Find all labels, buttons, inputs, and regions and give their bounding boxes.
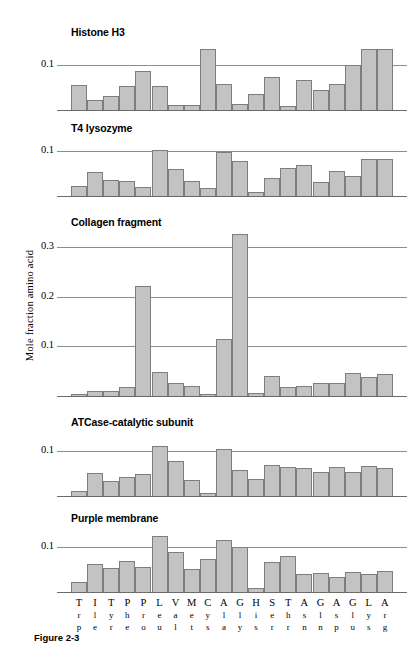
bar (232, 547, 248, 593)
bar (184, 480, 200, 496)
x-axis-label-thr: Thr (280, 596, 296, 633)
bar (103, 180, 119, 196)
bar (361, 377, 377, 396)
x-label-line: P (119, 596, 135, 609)
x-axis-label-arg: Arg (377, 596, 393, 633)
axis-baseline (57, 396, 407, 397)
bar (232, 161, 248, 196)
y-axis-tick-label: 0.1 (41, 540, 54, 551)
bar (345, 472, 361, 496)
bar (248, 588, 264, 592)
panel-title: Collagen fragment (71, 216, 161, 228)
bar (119, 86, 135, 110)
bar (135, 567, 151, 592)
bar (280, 106, 296, 110)
bar (248, 192, 264, 196)
x-label-line: u (345, 621, 361, 633)
bar (216, 449, 232, 496)
y-axis-tick-label: 0.1 (41, 58, 54, 69)
bar (264, 376, 280, 396)
x-axis-label-val: Val (168, 596, 184, 633)
x-label-line: y (361, 609, 377, 621)
x-label-line: r (377, 609, 393, 621)
bar (168, 461, 184, 496)
bar (71, 85, 87, 110)
bar (103, 568, 119, 592)
bar (280, 467, 296, 496)
bar (264, 77, 280, 110)
y-axis-tick-label: 0.3 (41, 240, 54, 251)
x-axis-label-ala: Ala (216, 596, 232, 633)
x-label-line: y (200, 609, 216, 621)
x-label-line: S (264, 596, 280, 609)
bar (329, 84, 345, 110)
bar (377, 468, 393, 496)
x-axis-label-gln: Gln (313, 596, 329, 633)
x-axis-label-phe: Phe (119, 596, 135, 633)
x-label-line: L (152, 596, 168, 609)
y-axis-tick-label: 0.1 (41, 444, 54, 455)
bar (135, 474, 151, 496)
bar (264, 465, 280, 496)
bar (87, 172, 103, 196)
x-label-line: r (71, 609, 87, 621)
bar (200, 559, 216, 592)
bar (313, 90, 329, 110)
bar (184, 105, 200, 110)
x-label-line: a (216, 621, 232, 633)
x-label-line: s (329, 609, 345, 621)
x-label-line: e (264, 609, 280, 621)
bar (87, 100, 103, 110)
bar (329, 383, 345, 396)
bar (71, 491, 87, 496)
bar (216, 84, 232, 110)
bar (345, 572, 361, 592)
x-label-line: a (168, 609, 184, 621)
bar (87, 473, 103, 496)
bar (200, 188, 216, 196)
x-axis-label-asn: Asn (296, 596, 312, 633)
bar (296, 80, 312, 110)
bar (248, 479, 264, 496)
x-axis-label-met: Met (184, 596, 200, 633)
figure-caption: Figure 2-3 (34, 632, 79, 643)
x-label-line: A (329, 596, 345, 609)
y-axis-tick-label: 0.2 (41, 290, 54, 301)
bar (377, 159, 393, 196)
bar (345, 65, 361, 110)
bar (184, 569, 200, 592)
bar (232, 470, 248, 496)
bar (377, 49, 393, 110)
bar (280, 168, 296, 196)
bar (329, 577, 345, 592)
x-label-line: L (361, 596, 377, 609)
bar (152, 536, 168, 592)
bar (168, 105, 184, 110)
bar (296, 468, 312, 496)
x-label-line: s (296, 609, 312, 621)
x-label-line: P (135, 596, 151, 609)
bar (329, 171, 345, 196)
bar (119, 181, 135, 196)
x-label-line: l (168, 621, 184, 633)
bar (296, 574, 312, 592)
x-label-line: r (103, 621, 119, 633)
x-label-line: I (87, 596, 103, 609)
bar (119, 477, 135, 496)
bar (296, 386, 312, 396)
x-label-line: p (329, 621, 345, 633)
bar (361, 49, 377, 110)
bar (87, 391, 103, 396)
bar (152, 150, 168, 196)
bar (103, 481, 119, 496)
bar (119, 561, 135, 592)
bar (103, 391, 119, 396)
x-axis-label-cys: Cys (200, 596, 216, 633)
bar (361, 159, 377, 196)
panel-title: T4 lysozyme (71, 122, 132, 134)
bar (135, 71, 151, 110)
bar (119, 387, 135, 396)
bar (71, 186, 87, 196)
bar (232, 234, 248, 396)
x-axis-label-leu: Leu (152, 596, 168, 633)
